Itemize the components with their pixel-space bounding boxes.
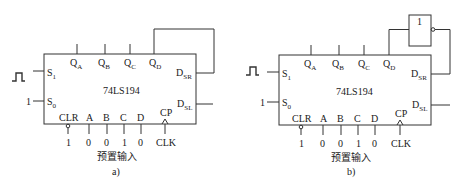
label-qa-b: QA <box>304 58 316 72</box>
label-c-b: C <box>354 113 361 124</box>
label-b-a: B <box>103 112 110 123</box>
label-qb-a: QB <box>98 57 110 71</box>
value-clr-b: 1 <box>299 138 304 149</box>
pulse-icon-a <box>12 73 25 81</box>
clock-triangle-a <box>162 119 168 124</box>
label-s0-b: S0 <box>282 97 292 111</box>
label-dsr-a: DSR <box>176 67 192 81</box>
label-c-a: C <box>120 112 127 123</box>
value-c-b: 1 <box>356 138 361 149</box>
value-b-a: 0 <box>104 137 109 148</box>
diagram-canvas: 74LS194 QA QB QC QD DSR DSL S1 1 S0 CLR … <box>0 0 463 187</box>
clock-triangle-b <box>397 120 403 125</box>
label-clr-b: CLR <box>292 113 312 124</box>
value-b-b: 0 <box>338 138 343 149</box>
label-s1-b: S1 <box>282 68 292 82</box>
value-s0-a: 1 <box>26 96 31 107</box>
label-b-b: B <box>337 113 344 124</box>
preset-label-b: 预置输入 <box>331 151 371 163</box>
chip-label-b: 74LS194 <box>336 86 373 97</box>
value-clk-a: CLK <box>156 137 177 148</box>
preset-label-a: 预置输入 <box>97 150 137 162</box>
value-a-a: 0 <box>86 137 91 148</box>
label-d-b: D <box>371 113 378 124</box>
pulse-icon-b <box>246 67 259 75</box>
diagram-b: 74LS194 QA QB QC QD 1 DSR DSL S1 1 S0 CL… <box>246 15 450 178</box>
label-dsl-b: DSL <box>412 99 427 113</box>
wire-inverter-to-dsr <box>431 30 450 75</box>
value-d-b: 0 <box>372 138 377 149</box>
inverter-label: 1 <box>417 16 422 27</box>
label-qd-b: QD <box>383 58 395 72</box>
clr-bubble-b <box>299 125 303 129</box>
feedback-wire-a <box>154 29 214 73</box>
caption-a: a) <box>112 166 120 178</box>
label-qa-a: QA <box>70 57 82 71</box>
label-a-a: A <box>86 112 94 123</box>
label-cp-a: CP <box>160 107 173 118</box>
label-qb-b: QB <box>332 58 344 72</box>
value-d-a: 0 <box>138 137 143 148</box>
label-d-a: D <box>137 112 144 123</box>
chip-label-a: 74LS194 <box>103 85 140 96</box>
value-a-b: 0 <box>320 138 325 149</box>
value-c-a: 1 <box>122 137 127 148</box>
label-a-b: A <box>320 113 328 124</box>
value-clk-b: CLK <box>391 138 412 149</box>
inverter-bubble <box>431 28 435 32</box>
label-dsl-a: DSL <box>177 98 192 112</box>
diagram-a: 74LS194 QA QB QC QD DSR DSL S1 1 S0 CLR … <box>12 29 214 178</box>
label-qc-b: QC <box>358 58 370 72</box>
label-s1-a: S1 <box>47 67 57 81</box>
value-s0-b: 1 <box>260 97 265 108</box>
caption-b: b) <box>347 166 355 178</box>
wire-qd-to-inverter <box>389 30 409 56</box>
label-s0-a: S0 <box>47 96 57 110</box>
label-clr-a: CLR <box>59 112 79 123</box>
value-clr-a: 1 <box>66 137 71 148</box>
label-cp-b: CP <box>395 108 408 119</box>
label-qd-a: QD <box>149 57 161 71</box>
clr-bubble-a <box>66 124 70 128</box>
label-dsr-b: DSR <box>411 68 427 82</box>
label-qc-a: QC <box>124 57 136 71</box>
